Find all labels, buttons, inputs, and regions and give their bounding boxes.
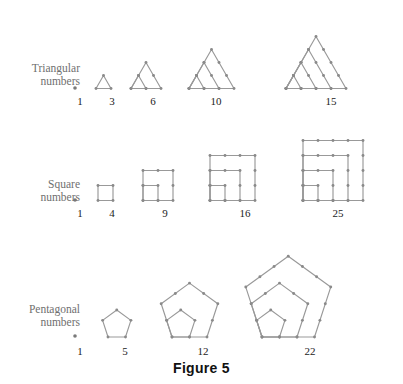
triangular-3-ring-1 <box>131 76 146 89</box>
square-5-dot <box>332 139 335 142</box>
triangular-2-dot <box>110 87 113 90</box>
square-5-dot <box>317 139 320 142</box>
triangular-5-ring-3 <box>286 50 331 89</box>
square-4-dot <box>239 199 242 202</box>
pentagonal-3-dot <box>211 319 214 322</box>
triangular-2-dot <box>95 87 98 90</box>
square-4-dot <box>224 169 227 172</box>
square-4-dot <box>224 184 227 187</box>
count-label-triangular-15: 15 <box>318 95 344 107</box>
triangular-4-dot <box>218 61 221 64</box>
square-5-dot <box>362 169 365 172</box>
pentagonal-2-dot <box>129 319 132 322</box>
square-3-dot <box>157 169 160 172</box>
triangular-3-dot <box>152 74 155 77</box>
square-5-dot <box>347 169 350 172</box>
square-5-dot <box>317 154 320 157</box>
row-label-triangular-line2: numbers <box>2 75 80 88</box>
count-label-square-9: 9 <box>152 207 178 219</box>
triangular-3-ring-2 <box>131 63 161 89</box>
pentagonal-3-dot <box>179 309 182 312</box>
square-5-ring-1 <box>303 186 318 201</box>
square-3-dot <box>172 184 175 187</box>
pentagonal-3-dot <box>171 336 174 339</box>
pentagonal-4-dot <box>301 319 304 322</box>
triangular-5-dot <box>322 48 325 51</box>
square-5-dot <box>347 139 350 142</box>
triangular-4-dot <box>210 74 213 77</box>
triangular-4-dot <box>203 87 206 90</box>
square-3-dot <box>142 169 145 172</box>
square-5-dot <box>302 154 305 157</box>
triangular-5-dot <box>307 74 310 77</box>
pentagonal-4-dot <box>306 302 309 305</box>
square-5-dot <box>332 184 335 187</box>
square-5-dot <box>332 169 335 172</box>
pentagonal-4-dot <box>287 255 290 258</box>
pentagonal-4-dot <box>283 319 286 322</box>
triangular-5-dot <box>315 87 318 90</box>
count-label-square-1: 1 <box>67 207 93 219</box>
count-label-pentagonal-1: 1 <box>67 345 93 357</box>
square-3-dot <box>142 199 145 202</box>
square-3-dot <box>157 199 160 202</box>
triangular-4-dot <box>210 48 213 51</box>
triangular-3-dot <box>160 87 163 90</box>
row-label-square-line1: Square <box>48 178 80 190</box>
square-3-dot <box>172 169 175 172</box>
square-5-dot <box>362 184 365 187</box>
pentagonal-3-dot <box>188 282 191 285</box>
triangular-5-dot <box>322 74 325 77</box>
triangular-4-ring-1 <box>189 76 204 89</box>
pentagonal-4-dot <box>329 286 332 289</box>
count-label-triangular-1: 1 <box>67 95 93 107</box>
pentagonal-4-dot <box>264 292 267 295</box>
triangular-4-dot <box>218 87 221 90</box>
square-5-dot <box>332 154 335 157</box>
row-label-square: Square numbers <box>2 178 80 204</box>
count-label-pentagonal-12: 12 <box>190 345 216 357</box>
triangular-5-dot <box>300 87 303 90</box>
square-4-dot <box>254 184 257 187</box>
triangular-3-dot <box>145 87 148 90</box>
triangular-4-dot <box>188 87 191 90</box>
square-2-ring-1 <box>98 186 113 201</box>
square-5-dot <box>362 139 365 142</box>
square-4-dot <box>209 154 212 157</box>
pentagonal-2-dot <box>115 309 118 312</box>
square-4-dot <box>224 154 227 157</box>
triangular-5-dot <box>307 48 310 51</box>
pentagonal-1-point <box>73 334 77 338</box>
square-5-dot <box>347 184 350 187</box>
square-4-dot <box>254 169 257 172</box>
pentagonal-4-dot <box>292 292 295 295</box>
pentagonal-3-dot <box>160 302 163 305</box>
square-4-dot <box>209 184 212 187</box>
row-label-pentagonal-line2: numbers <box>2 316 80 329</box>
count-label-triangular-6: 6 <box>140 95 166 107</box>
row-label-square-line2: numbers <box>2 191 80 204</box>
triangular-5-ring-2 <box>286 63 316 89</box>
triangular-5-dot <box>285 87 288 90</box>
square-3-dot <box>157 184 160 187</box>
row-label-pentagonal-line1: Pentagonal <box>29 303 80 315</box>
row-label-triangular-line1: Triangular <box>32 62 80 74</box>
triangular-5-dot <box>292 74 295 77</box>
triangular-5-dot <box>345 87 348 90</box>
pentagonal-3-dot <box>188 336 191 339</box>
pentagonal-4-dot <box>301 265 304 268</box>
triangular-5-dot <box>337 74 340 77</box>
pentagonal-2-dot <box>107 336 110 339</box>
square-4-dot <box>224 199 227 202</box>
count-label-triangular-3: 3 <box>99 95 125 107</box>
square-5-dot <box>317 184 320 187</box>
square-4-dot <box>209 199 212 202</box>
count-label-square-25: 25 <box>325 207 351 219</box>
figure-caption: Figure 5 <box>0 360 403 376</box>
triangular-5-dot <box>300 61 303 64</box>
pentagonal-4-dot <box>324 302 327 305</box>
square-2-dot <box>97 184 100 187</box>
pentagonal-4-dot <box>255 319 258 322</box>
pentagonal-4-dot <box>250 302 253 305</box>
pentagonal-2-dot <box>124 336 127 339</box>
